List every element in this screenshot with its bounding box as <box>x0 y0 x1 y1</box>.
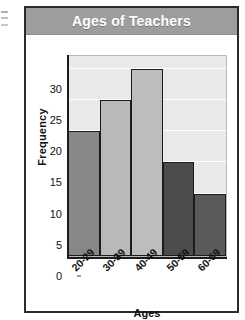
y-axis-tick-label: 5 <box>56 239 62 251</box>
y-axis-tick-label: 0 <box>56 270 62 282</box>
x-axis-title: Ages <box>67 307 227 319</box>
y-axis-line <box>67 55 69 259</box>
bar <box>100 100 132 256</box>
bar <box>131 69 163 257</box>
x-axis-tick-labels: 20-2930-3940-4950-5960-69 <box>67 259 227 301</box>
y-axis-tick-label: 25 <box>50 114 62 126</box>
bar <box>163 162 195 256</box>
y-axis-tick-label: 20 <box>50 145 62 157</box>
y-axis-tick-labels: 051015202530 <box>40 76 62 257</box>
y-axis-tick-label: 10 <box>50 208 62 220</box>
bars-layer <box>68 56 226 256</box>
bar <box>194 194 226 257</box>
bar <box>68 131 100 256</box>
figure-card: Ages of Teachers Frequency 051015202530 … <box>24 6 239 313</box>
page-title: Ages of Teachers <box>72 13 191 29</box>
chart-body: Frequency 051015202530 20-2930-3940-4950… <box>26 35 237 314</box>
plot-area <box>67 55 227 257</box>
y-axis-tick-label: 15 <box>50 176 62 188</box>
y-axis-tick-label: 30 <box>50 83 62 95</box>
page-edge-artifact <box>1 8 8 30</box>
chart-title-bar: Ages of Teachers <box>26 8 237 35</box>
